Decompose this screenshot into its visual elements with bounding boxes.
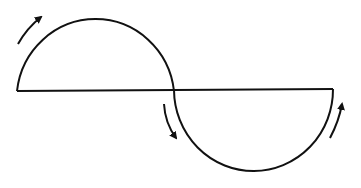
wave-diagram	[0, 0, 361, 188]
arrow-upper-left-icon	[18, 17, 41, 44]
arrow-lower-right-icon	[330, 104, 342, 138]
arrow-lower-left-icon	[164, 104, 176, 138]
upper-semicircle	[17, 19, 174, 91]
wave-diagram-svg	[0, 0, 361, 188]
lower-semicircle	[174, 89, 333, 171]
